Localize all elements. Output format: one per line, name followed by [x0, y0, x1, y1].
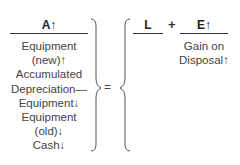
- plus-sign: +: [168, 17, 176, 32]
- equity-items: Gain on Disposal↑: [172, 39, 236, 67]
- assets-item: Equipment↓: [4, 96, 94, 110]
- assets-items: Equipment (new)↑ Accumulated Depreciatio…: [4, 39, 94, 153]
- equity-header-rule: [180, 33, 228, 34]
- assets-item: Equipment: [4, 39, 94, 53]
- equity-item: Disposal↑: [172, 53, 236, 67]
- assets-item: Depreciation—: [4, 82, 94, 96]
- equity-header: E↑: [180, 18, 228, 32]
- assets-item: (old)↓: [4, 124, 94, 138]
- left-brace-icon: [120, 18, 132, 152]
- assets-item: (new)↑: [4, 53, 94, 67]
- assets-header-rule: [10, 33, 88, 34]
- liabilities-header: L: [133, 18, 163, 32]
- assets-item: Accumulated: [4, 67, 94, 81]
- assets-item: Equipment: [4, 110, 94, 124]
- equals-sign: =: [104, 80, 111, 94]
- equity-item: Gain on: [172, 39, 236, 53]
- assets-item: Cash↓: [4, 138, 94, 152]
- liabilities-header-rule: [133, 33, 163, 34]
- right-brace-icon: [90, 18, 102, 152]
- assets-header: A↑: [10, 18, 88, 32]
